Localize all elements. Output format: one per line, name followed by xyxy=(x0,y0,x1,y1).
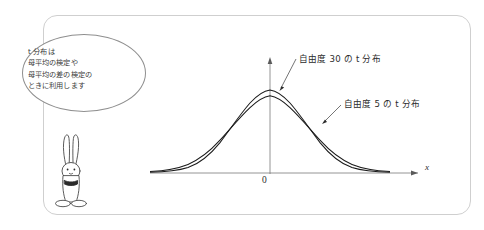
leader-line-df30 xyxy=(280,59,297,91)
x-axis-label: x xyxy=(425,162,429,172)
t-distribution-chart xyxy=(0,0,484,230)
origin-label: 0 xyxy=(262,175,267,185)
figure-root: t 分布は 母平均の検定や 母平均の差の検定の ときに利用します xyxy=(0,0,484,230)
annotation-df30-label: 自由度 30 の t 分布 xyxy=(299,52,381,64)
leader-line-df5 xyxy=(322,105,341,124)
annotation-df5-label: 自由度 5 の t 分布 xyxy=(344,97,420,109)
y-axis xyxy=(268,57,273,174)
